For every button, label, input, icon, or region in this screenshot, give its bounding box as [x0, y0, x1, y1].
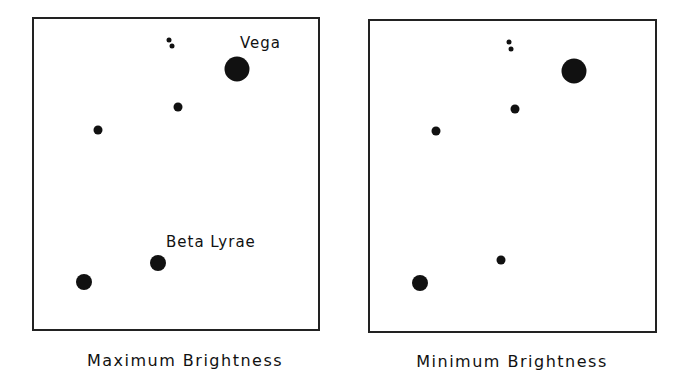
- star-double-a: [167, 38, 172, 43]
- star-vega: [562, 59, 587, 84]
- star-left: [432, 127, 441, 136]
- star-bottom-left: [412, 275, 428, 291]
- caption-minimum-brightness: Minimum Brightness: [416, 352, 607, 371]
- star-double-a: [507, 40, 512, 45]
- star-double-b: [170, 44, 175, 49]
- panel-minimum-brightness: [368, 19, 657, 333]
- star-beta-lyrae: [150, 255, 166, 271]
- star-left: [94, 126, 103, 135]
- panel-maximum-brightness: [32, 17, 320, 331]
- star-mid: [511, 105, 520, 114]
- star-beta-lyrae: [497, 256, 506, 265]
- star-bottom-left: [76, 274, 92, 290]
- star-mid: [174, 103, 183, 112]
- label-vega: Vega: [240, 34, 281, 52]
- star-vega: [225, 57, 250, 82]
- star-double-b: [509, 47, 514, 52]
- caption-maximum-brightness: Maximum Brightness: [87, 351, 283, 370]
- label-beta-lyrae: Beta Lyrae: [166, 233, 256, 251]
